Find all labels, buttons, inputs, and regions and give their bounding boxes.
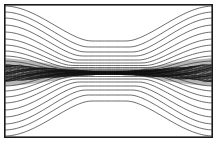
contour-figure: [0, 0, 221, 146]
contour-plot-canvas: [0, 0, 221, 146]
